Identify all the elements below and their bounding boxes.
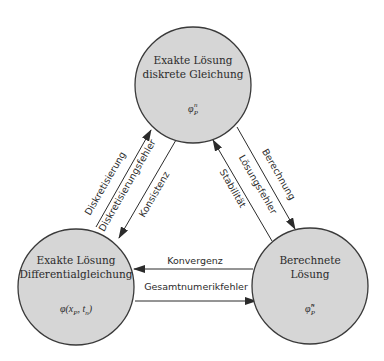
node-circle-right (252, 228, 368, 344)
stabilitaet-label: Stabilität (218, 167, 249, 210)
node-right-title-line1: Berechnete (279, 254, 340, 266)
gesamtnumerikfehler-label: Gesamtnumerikfehler (144, 281, 248, 292)
node-discrete-exact-solution: Exakte Lösung diskrete Gleichung φPn (135, 27, 251, 143)
node-circle-left (18, 229, 134, 345)
node-differential-exact-solution: Exakte Lösung Differentialgleichung φ(xP… (18, 229, 134, 345)
node-right-title-line2: Lösung (291, 268, 330, 280)
node-circle-top (135, 27, 251, 143)
error-relationship-diagram: Diskretisierung Diskretisierungsfehler K… (0, 0, 384, 361)
konvergenz-label: Konvergenz (167, 255, 223, 266)
node-left-title-line1: Exakte Lösung (37, 254, 116, 266)
node-left-title-line2: Differentialgleichung (19, 268, 132, 280)
node-top-title-line1: Exakte Lösung (154, 54, 233, 66)
node-computed-solution: Berechnete Lösung φ̃Pn (252, 228, 368, 344)
node-top-title-line2: diskrete Gleichung (142, 68, 243, 80)
